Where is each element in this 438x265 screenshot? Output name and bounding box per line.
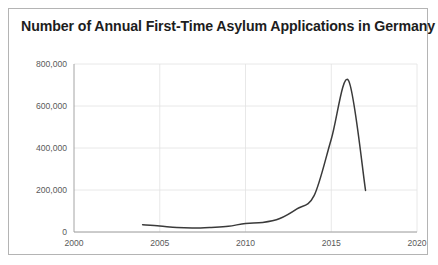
y-axis-tick-label: 800,000 bbox=[36, 59, 67, 69]
x-axis-tick-label: 2015 bbox=[322, 238, 341, 248]
chart-title: Number of Annual First-Time Asylum Appli… bbox=[21, 18, 419, 34]
plot-area: 0200,000400,000600,000800,000 2000200520… bbox=[9, 42, 427, 254]
x-axis-tick-label: 2010 bbox=[236, 238, 255, 248]
data-series-line bbox=[143, 79, 366, 228]
y-axis-tick-label: 400,000 bbox=[36, 143, 67, 153]
x-axis-tick-labels: 20002005201020152020 bbox=[64, 238, 426, 248]
gridlines bbox=[74, 64, 417, 232]
x-axis-tick-label: 2005 bbox=[150, 238, 169, 248]
y-axis-tick-label: 200,000 bbox=[36, 185, 67, 195]
x-axis-tick-label: 2020 bbox=[407, 238, 426, 248]
chart-card: Number of Annual First-Time Asylum Appli… bbox=[8, 8, 428, 255]
y-axis-tick-label: 600,000 bbox=[36, 101, 67, 111]
x-axis-tick-label: 2000 bbox=[64, 238, 83, 248]
line-chart-svg: 0200,000400,000600,000800,000 2000200520… bbox=[9, 42, 427, 254]
y-axis-tick-labels: 0200,000400,000600,000800,000 bbox=[36, 59, 67, 237]
y-axis-tick-label: 0 bbox=[62, 227, 67, 237]
